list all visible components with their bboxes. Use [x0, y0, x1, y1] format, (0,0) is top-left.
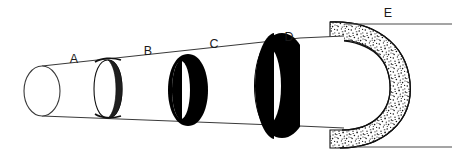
thin-outline-ring	[94, 58, 122, 118]
label-b: B	[144, 44, 153, 58]
figure-root: A B C D E	[0, 0, 452, 157]
label-a: A	[70, 52, 79, 66]
label-c: C	[209, 37, 218, 51]
label-d: D	[284, 30, 293, 44]
cylinder-band-diagram: A B C D E	[0, 0, 452, 157]
medium-black-ring	[168, 54, 208, 126]
label-e: E	[384, 6, 393, 20]
bulb-inner-bore	[300, 36, 344, 128]
